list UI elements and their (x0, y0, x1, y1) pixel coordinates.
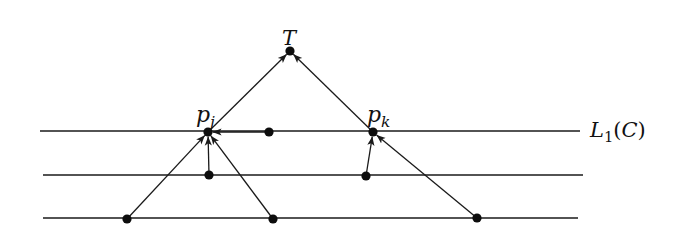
node-label-pj-subscript: j (210, 113, 215, 131)
node-c (361, 171, 370, 180)
node-f (472, 213, 481, 222)
edge-f-to-pk (377, 135, 477, 218)
level-label-script: L (590, 118, 604, 142)
edge-d-to-pj (127, 135, 205, 219)
edge-e-to-pj (211, 136, 273, 219)
diagram-svg (0, 0, 684, 242)
node-d (122, 214, 131, 223)
node-label-pk: pk (367, 104, 390, 131)
node-label-T-text: T (282, 26, 296, 50)
edge-pk-to-T (293, 54, 373, 132)
level-label: L1(C) (590, 120, 646, 145)
node-label-pj: pj (196, 104, 215, 131)
node-b (204, 170, 213, 179)
edge-b-to-pj (208, 137, 209, 175)
node-label-pj-base: p (196, 102, 210, 127)
edge-pj-to-T (208, 54, 287, 132)
edge-c-to-pk (366, 137, 372, 176)
node-label-pk-base: p (367, 102, 381, 127)
node-a (264, 127, 273, 136)
level-lines (40, 131, 583, 218)
nodes (122, 46, 481, 223)
edges (127, 54, 477, 219)
level-label-argument: C (622, 118, 638, 142)
level-label-subscript: 1 (604, 128, 613, 145)
node-label-pk-subscript: k (381, 113, 390, 131)
diagram-canvas: T pj pk L1(C) (0, 0, 684, 242)
node-e (268, 214, 277, 223)
node-label-T: T (282, 28, 296, 49)
